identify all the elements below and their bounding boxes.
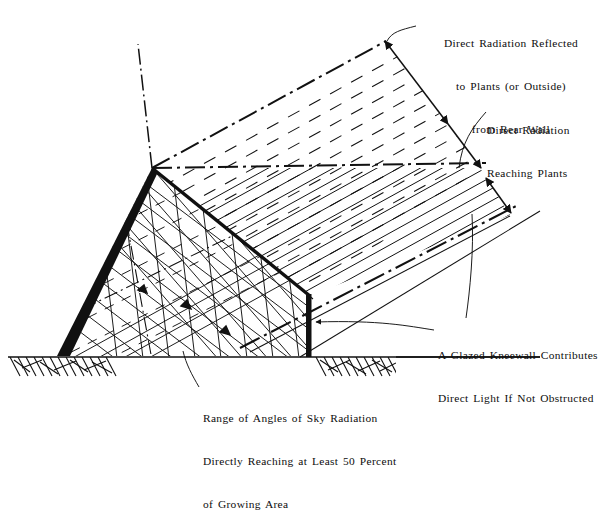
- label-direct-radiation-reaching-plants: Direct Radiation Reaching Plants: [487, 95, 612, 209]
- label-reflected-line-1: Direct Radiation Reflected: [416, 36, 606, 50]
- leader-reflected: [387, 26, 416, 41]
- sky-angle-crosshatch: [10, 74, 430, 431]
- label-range-line-3: of Growing Area: [203, 497, 433, 511]
- ground-hatch-left: [10, 357, 116, 376]
- label-range-line-2: Directly Reaching at Least 50 Percent: [203, 454, 433, 468]
- ridge-dashdot-line: [138, 44, 152, 168]
- rear-wall: [57, 168, 158, 356]
- label-kneewall-line-1: A Glazed Kneewall Contributes: [438, 348, 614, 362]
- ground-hatch-right: [316, 357, 398, 376]
- label-kneewall-line-2: Direct Light If Not Obstructed: [438, 391, 614, 405]
- label-range-line-1: Range of Angles of Sky Radiation: [203, 411, 433, 425]
- glazing-slope-inner: [156, 171, 313, 299]
- reflected-band-upper-boundary: [152, 41, 386, 168]
- label-range-of-angles: Range of Angles of Sky Radiation Directl…: [203, 383, 433, 514]
- label-glazed-kneewall: A Glazed Kneewall Contributes Direct Lig…: [438, 320, 614, 434]
- kneewall: [306, 294, 312, 357]
- leader-kneewall: [316, 322, 434, 330]
- label-reaching-line-1: Direct Radiation: [487, 123, 612, 137]
- label-reflected-line-2: to Plants (or Outside): [416, 79, 606, 93]
- label-reaching-line-2: Reaching Plants: [487, 166, 612, 180]
